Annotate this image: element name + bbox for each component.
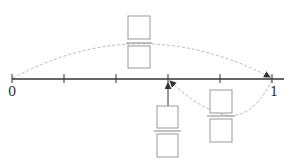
numerator-box[interactable] [157,106,178,128]
fraction-blank-back-jump [207,90,235,142]
label-one: 1 [270,84,278,99]
denominator-box[interactable] [157,134,178,157]
denominator-box[interactable] [128,46,150,68]
label-zero: 0 [8,84,16,99]
number-line-diagram: 0 1 [0,0,290,166]
fraction-blank-target-point [154,106,181,157]
numerator-box[interactable] [128,16,150,39]
fraction-blank-whole-jump [126,16,152,68]
numerator-box[interactable] [210,90,232,113]
denominator-box[interactable] [210,119,232,142]
